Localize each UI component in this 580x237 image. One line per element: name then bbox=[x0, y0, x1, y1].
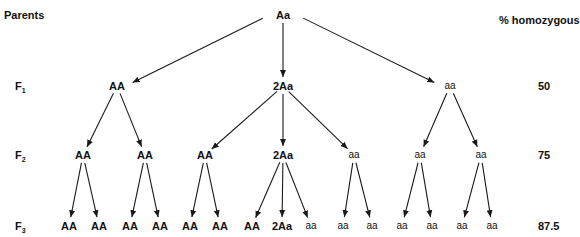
arrow-f2f-to-f3l bbox=[404, 163, 418, 218]
arrow-f2d-to-f3i bbox=[286, 162, 308, 217]
arrow-f2e-to-f3k bbox=[356, 163, 370, 218]
genotype-node-f3m: aa bbox=[426, 221, 437, 231]
arrow-f1c-to-f2f bbox=[424, 93, 447, 146]
genotype-node-f3c: AA bbox=[122, 221, 138, 232]
percent-homozygous-f3: 87.5 bbox=[538, 220, 559, 232]
percent-homozygous-f2: 75 bbox=[538, 149, 550, 161]
genotype-node-f3l: aa bbox=[396, 221, 407, 231]
parents-label: Parents bbox=[4, 9, 44, 21]
arrow-f2g-to-f3o bbox=[482, 163, 490, 217]
generation-label-f3: F3 bbox=[15, 220, 26, 234]
genotype-node-f3g: AA bbox=[244, 221, 260, 232]
genotype-node-f3i: aa bbox=[305, 221, 316, 231]
genotype-node-f2e: aa bbox=[348, 150, 359, 160]
genotype-node-f3o: aa bbox=[486, 221, 497, 231]
genotype-node-f1c: aa bbox=[444, 81, 455, 91]
genotype-node-f3j: aa bbox=[337, 221, 348, 231]
arrow-f2g-to-f3n bbox=[464, 163, 479, 218]
arrow-p-to-f1a bbox=[133, 18, 263, 82]
genotype-node-f2a: AA bbox=[75, 150, 91, 161]
arrow-f1b-to-f2c bbox=[212, 91, 277, 149]
genotype-node-f3e: AA bbox=[182, 221, 198, 232]
genotype-node-f3a: AA bbox=[61, 221, 77, 232]
genotype-node-f2g: aa bbox=[475, 150, 486, 160]
genotype-node-f3n: aa bbox=[456, 221, 467, 231]
generation-label-f2: F2 bbox=[15, 149, 26, 163]
genotype-node-p: Aa bbox=[276, 10, 290, 21]
genotype-node-f3b: AA bbox=[91, 221, 107, 232]
arrow-f1a-to-f2a bbox=[87, 93, 113, 147]
arrow-f2e-to-f3j bbox=[344, 163, 352, 217]
genotype-node-f1b: 2Aa bbox=[273, 81, 293, 92]
arrow-f1c-to-f2g bbox=[453, 93, 477, 146]
arrow-f2d-to-f3h bbox=[282, 163, 283, 217]
arrow-f2c-to-f3f bbox=[207, 163, 218, 217]
genotype-node-f2c: AA bbox=[197, 150, 213, 161]
arrow-f2b-to-f3c bbox=[132, 163, 143, 217]
genotype-node-f3f: AA bbox=[212, 221, 228, 232]
arrow-f2f-to-f3m bbox=[421, 163, 430, 217]
arrow-f1b-to-f2e bbox=[289, 92, 348, 149]
genotype-node-f2f: aa bbox=[414, 150, 425, 160]
genotype-node-f3h: 2Aa bbox=[272, 221, 292, 232]
arrow-p-to-f1c bbox=[303, 18, 434, 82]
arrow-f2d-to-f3g bbox=[256, 162, 280, 217]
genotype-node-f2b: AA bbox=[137, 150, 153, 161]
generation-label-f1: F1 bbox=[15, 80, 26, 94]
arrow-f2b-to-f3d bbox=[147, 163, 158, 217]
genotype-node-f2d: 2Aa bbox=[273, 150, 293, 161]
homozygous-header: % homozygous bbox=[499, 14, 580, 26]
arrow-f1a-to-f2b bbox=[120, 93, 142, 146]
arrow-f2a-to-f3a bbox=[71, 163, 82, 217]
genotype-node-f1a: AA bbox=[109, 81, 125, 92]
arrow-f2a-to-f3b bbox=[85, 163, 97, 217]
arrow-f2c-to-f3e bbox=[192, 163, 203, 217]
percent-homozygous-f1: 50 bbox=[538, 80, 550, 92]
genotype-node-f3k: aa bbox=[366, 221, 377, 231]
genotype-node-f3d: AA bbox=[152, 221, 168, 232]
